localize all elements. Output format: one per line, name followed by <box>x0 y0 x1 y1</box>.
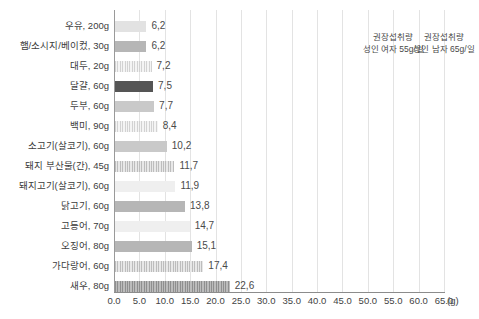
bar <box>115 61 152 72</box>
bar-row: 백미, 90g8,4 <box>114 116 444 136</box>
x-tick-label: 15.0 <box>181 295 200 306</box>
category-label: 돼지 부산물(간), 45g <box>25 156 109 176</box>
x-tick-label: 40.0 <box>308 295 327 306</box>
x-tick-label: 35.0 <box>282 295 301 306</box>
bar-row: 가다랑어, 60g17,4 <box>114 256 444 276</box>
bar <box>115 141 167 152</box>
bar <box>115 101 154 112</box>
x-axis-unit-label: (g) <box>447 295 459 306</box>
bar <box>115 41 146 52</box>
bar-value-label: 7,7 <box>159 96 173 116</box>
note-line-1: 권장섭취량 <box>392 32 479 44</box>
x-tick-label: 25.0 <box>232 295 251 306</box>
x-axis-line <box>114 292 445 293</box>
bar-value-label: 7,2 <box>157 56 171 76</box>
category-label: 닭고기, 60g <box>61 196 109 216</box>
bar-row: 돼지고기(살코기), 60g11,9 <box>114 176 444 196</box>
bar <box>115 261 203 272</box>
x-tick-label: 5.0 <box>133 295 146 306</box>
bar-row: 달걀, 60g7,5 <box>114 76 444 96</box>
category-label: 돼지고기(살코기), 60g <box>19 176 109 196</box>
bar <box>115 281 230 292</box>
x-tick-label: 60.0 <box>409 295 428 306</box>
bar-row: 대두, 20g7,2 <box>114 56 444 76</box>
category-label: 우유, 200g <box>65 16 109 36</box>
bar-value-label: 6,2 <box>151 36 165 56</box>
category-label: 두부, 60g <box>70 96 109 116</box>
category-label: 고등어, 70g <box>61 216 109 236</box>
bar <box>115 201 185 212</box>
recommended-intake-note: 권장섭취량성인 남자 65g/일 <box>392 32 479 55</box>
bar-row: 닭고기, 60g13,8 <box>114 196 444 216</box>
bar <box>115 81 153 92</box>
bar <box>115 161 174 172</box>
category-label: 가다랑어, 60g <box>52 256 109 276</box>
category-label: 백미, 90g <box>70 116 109 136</box>
bar-value-label: 15,1 <box>197 236 216 256</box>
category-label: 오징어, 80g <box>61 236 109 256</box>
x-tick-label: 55.0 <box>384 295 403 306</box>
bar-value-label: 14,7 <box>195 216 214 236</box>
bar-row: 두부, 60g7,7 <box>114 96 444 116</box>
bar <box>115 241 192 252</box>
bar <box>115 121 158 132</box>
bar-value-label: 6,2 <box>151 16 165 36</box>
bar-value-label: 11,9 <box>180 176 199 196</box>
bar-row: 돼지 부산물(간), 45g11,7 <box>114 156 444 176</box>
bar-value-label: 8,4 <box>163 116 177 136</box>
x-axis-tick-labels: 0.05.010.015.020.025.030.035.040.045.050… <box>114 295 444 311</box>
x-tick-label: 50.0 <box>359 295 378 306</box>
bar-value-label: 7,5 <box>158 76 172 96</box>
bar-row: 소고기(살코기), 60g10,2 <box>114 136 444 156</box>
bar-value-label: 17,4 <box>208 256 227 276</box>
bar-value-label: 11,7 <box>179 156 198 176</box>
x-tick-label: 45.0 <box>333 295 352 306</box>
bar-row: 오징어, 80g15,1 <box>114 236 444 256</box>
bar <box>115 181 175 192</box>
bar-row: 고등어, 70g14,7 <box>114 216 444 236</box>
bar-value-label: 22,6 <box>235 276 254 296</box>
plot-area: 우유, 200g6,2햄/소시지/베이컸, 30g6,2대두, 20g7,2달걀… <box>114 10 444 292</box>
x-tick-label: 30.0 <box>257 295 276 306</box>
category-label: 소고기(살코기), 60g <box>28 136 109 156</box>
bar-value-label: 10,2 <box>172 136 191 156</box>
bar <box>115 21 146 32</box>
x-tick-label: 20.0 <box>206 295 225 306</box>
x-tick-label: 10.0 <box>156 295 175 306</box>
bar <box>115 221 190 232</box>
category-label: 햄/소시지/베이컸, 30g <box>20 36 109 56</box>
category-label: 대두, 20g <box>70 56 109 76</box>
bar-value-label: 13,8 <box>190 196 209 216</box>
note-line-2: 성인 남자 65g/일 <box>392 44 479 56</box>
x-tick-label: 0.0 <box>107 295 120 306</box>
category-label: 새우, 80g <box>70 276 109 296</box>
bar-row: 새우, 80g22,6 <box>114 276 444 296</box>
category-label: 달걀, 60g <box>70 76 109 96</box>
